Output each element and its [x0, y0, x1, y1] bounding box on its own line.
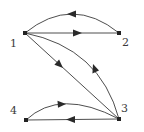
node-label-2: 2	[122, 36, 129, 49]
node-4	[24, 118, 28, 122]
node-1	[23, 31, 27, 35]
edge-3-to-4	[26, 116, 119, 123]
edge-1-to-3	[25, 33, 119, 119]
arrowhead-left-icon	[67, 11, 76, 18]
node-label-4: 4	[10, 104, 17, 117]
arrowhead-left-icon	[66, 116, 75, 123]
node-label-3: 3	[121, 102, 128, 115]
arrowhead-right-icon	[58, 101, 67, 108]
node-3	[117, 117, 121, 121]
node-label-1: 1	[10, 37, 17, 50]
edge-1-to-2	[25, 30, 119, 37]
arrowhead-right-icon	[73, 30, 82, 37]
edge-2-to-1	[25, 11, 119, 34]
directed-graph: 1 2 3 4	[0, 0, 144, 132]
node-2	[117, 31, 121, 35]
